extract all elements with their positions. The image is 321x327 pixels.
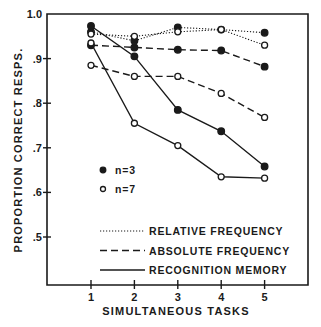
- open-marker: [131, 73, 137, 79]
- filled-marker: [261, 29, 268, 36]
- legend-marker-open: [101, 187, 106, 192]
- open-marker: [88, 62, 94, 68]
- filled-marker: [261, 163, 268, 170]
- open-marker: [218, 174, 224, 180]
- open-marker: [218, 27, 224, 33]
- filled-marker: [175, 107, 182, 114]
- open-marker: [131, 33, 137, 39]
- open-marker: [88, 40, 94, 46]
- filled-marker: [218, 128, 225, 135]
- filled-marker: [88, 23, 95, 30]
- filled-marker: [131, 53, 138, 60]
- legend-line-label: RELATIVE FREQUENCY: [149, 225, 283, 237]
- y-tick-label: 1.0: [27, 8, 42, 20]
- filled-marker: [218, 47, 225, 54]
- open-marker: [175, 29, 181, 35]
- legend-marker-label: n=7: [115, 183, 136, 195]
- open-marker: [262, 42, 268, 48]
- legend-line-label: ABSOLUTE FREQUENCY: [149, 245, 290, 257]
- filled-marker: [131, 44, 138, 51]
- open-marker: [262, 175, 268, 181]
- x-axis-title: SIMULTANEOUS TASKS: [102, 305, 250, 317]
- y-tick-label: .5: [33, 231, 42, 243]
- y-tick-label: .6: [33, 186, 42, 198]
- y-axis-title: PROPORTION CORRECT RESPS.: [12, 48, 24, 253]
- x-tick-label: 2: [131, 291, 137, 303]
- open-marker: [88, 31, 94, 37]
- x-axis: 12345: [88, 280, 268, 303]
- open-marker: [175, 143, 181, 149]
- line-chart: 1.0.9.8.7.6.5 12345 n=3n=7RELATIVE FREQU…: [0, 0, 321, 327]
- open-marker: [175, 73, 181, 79]
- x-tick-label: 5: [262, 291, 268, 303]
- open-marker: [218, 90, 224, 96]
- filled-marker: [261, 63, 268, 70]
- legend-line-label: RECOGNITION MEMORY: [149, 264, 287, 276]
- x-tick-label: 1: [88, 291, 94, 303]
- x-tick-label: 4: [218, 291, 225, 303]
- y-tick-label: .9: [33, 53, 42, 65]
- open-marker: [131, 120, 137, 126]
- legend-marker-filled: [100, 167, 106, 173]
- open-marker: [262, 114, 268, 120]
- y-tick-label: .8: [33, 97, 42, 109]
- legend-marker-label: n=3: [115, 164, 136, 176]
- x-tick-label: 3: [175, 291, 181, 303]
- legend: n=3n=7RELATIVE FREQUENCYABSOLUTE FREQUEN…: [100, 164, 290, 276]
- y-tick-label: .7: [33, 142, 42, 154]
- data-series: [88, 23, 268, 181]
- filled-marker: [175, 46, 182, 53]
